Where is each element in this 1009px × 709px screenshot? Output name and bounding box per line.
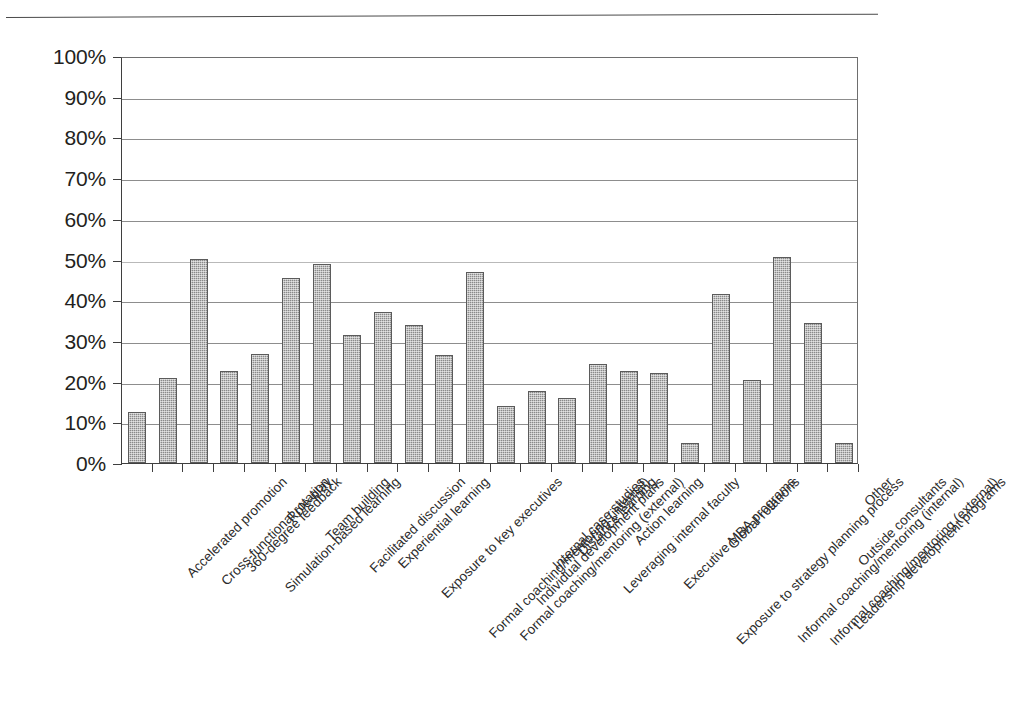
bar[interactable] [405,325,423,463]
y-axis-tick-label: 20% [18,372,106,393]
bar[interactable] [435,355,453,463]
x-axis-tick-mark [213,464,214,472]
x-axis-tick-mark [827,464,828,472]
y-axis-tick-label: 70% [18,168,106,189]
y-axis-tick-label: 10% [18,412,106,433]
bar[interactable] [589,364,607,463]
x-axis-tick-mark [428,464,429,472]
x-axis-tick-mark [704,464,705,472]
bar[interactable] [251,354,269,463]
x-axis-tick-mark [797,464,798,472]
x-axis-tick-mark [397,464,398,472]
y-axis-tick-label: 60% [18,209,106,230]
x-axis-tick-mark [674,464,675,472]
bar[interactable] [374,312,392,463]
x-axis-tick-mark [152,464,153,472]
y-axis-tick-label: 100% [18,46,106,67]
y-axis-tick-label: 0% [18,453,106,474]
x-axis-tick-mark [490,464,491,472]
bar[interactable] [650,373,668,463]
x-axis-tick-mark [305,464,306,472]
x-axis-ticks [121,464,858,473]
bar[interactable] [343,335,361,463]
bar[interactable] [712,294,730,463]
bar[interactable] [128,412,146,463]
x-axis-tick-mark [643,464,644,472]
x-axis-tick-mark [367,464,368,472]
x-axis-tick-mark [275,464,276,472]
x-axis-tick-mark [766,464,767,472]
bar[interactable] [313,264,331,463]
plot-area [121,57,858,464]
bar-series [122,58,857,463]
x-axis-tick-mark [582,464,583,472]
y-axis-tick-label: 30% [18,331,106,352]
bar[interactable] [681,443,699,463]
bar[interactable] [773,257,791,463]
x-axis-tick-mark [244,464,245,472]
y-axis-tick-label: 40% [18,290,106,311]
bar[interactable] [466,272,484,463]
bar[interactable] [497,406,515,463]
bar[interactable] [282,278,300,463]
bar[interactable] [743,380,761,463]
y-axis-tick-label: 50% [18,250,106,271]
bar[interactable] [159,378,177,463]
bar[interactable] [835,443,853,463]
bar[interactable] [620,371,638,463]
y-axis-tick-label: 90% [18,87,106,108]
x-axis-tick-mark [459,464,460,472]
x-axis-tick-mark [735,464,736,472]
x-axis-tick-mark [551,464,552,472]
bar[interactable] [804,323,822,463]
x-axis-tick-mark [182,464,183,472]
x-axis-tick-mark [858,464,859,472]
x-axis-tick-mark [336,464,337,472]
bar[interactable] [558,398,576,463]
page-horizontal-rule [6,14,878,18]
bar[interactable] [190,259,208,463]
bar[interactable] [220,371,238,463]
x-axis-tick-mark [520,464,521,472]
bar[interactable] [528,391,546,463]
x-axis-tick-mark [612,464,613,472]
y-axis: 0%10%20%30%40%50%60%70%80%90%100% [0,0,121,709]
y-axis-tick-label: 80% [18,127,106,148]
